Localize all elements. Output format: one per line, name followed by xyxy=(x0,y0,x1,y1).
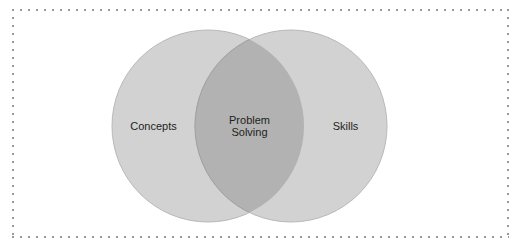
venn-diagram: Concepts Problem Solving Skills xyxy=(0,0,522,252)
venn-diagram-svg xyxy=(0,0,522,252)
figure-canvas: Concepts Problem Solving Skills xyxy=(0,0,522,252)
